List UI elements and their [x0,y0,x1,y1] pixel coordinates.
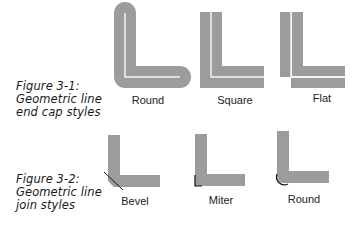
bevel-join-label: Bevel [121,195,149,207]
square-cap-shape [211,12,264,77]
caption-line: join styles [16,199,102,212]
figure-3-1-caption: Figure 3-1: Geometric line end cap style… [16,80,102,119]
figure-3-2-caption: Figure 3-2: Geometric line join styles [16,173,102,212]
round-cap-label: Round [132,94,164,106]
flat-cap-shape [280,12,345,88]
round-join-label: Round [288,193,320,205]
bevel-join-shape [104,135,160,190]
miter-join-shape [195,134,245,186]
miter-join-label: Miter [209,194,233,206]
flat-cap-label: Flat [313,92,331,104]
caption-line: end cap styles [16,106,102,119]
square-cap-label: Square [217,94,252,106]
round-join-shape [276,131,329,185]
round-cap-shape [125,13,180,77]
